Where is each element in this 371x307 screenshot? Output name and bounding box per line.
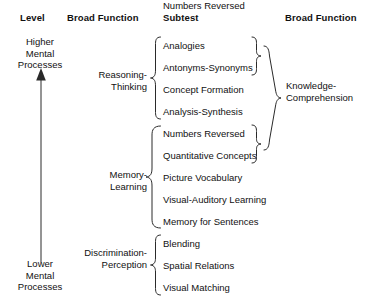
- hierarchy-diagram: Level Broad Function Subtest Broad Funct…: [0, 0, 371, 307]
- brace-memory-learning: [146, 126, 161, 228]
- level-arrow-icon: [36, 68, 46, 262]
- brace-knowledge-comprehension: [264, 46, 281, 150]
- brace-reasoning-thinking: [151, 37, 161, 119]
- brace-group-quantitative: [252, 125, 261, 163]
- brace-discrimination-perception: [151, 235, 161, 295]
- diagram-lines: [0, 0, 371, 307]
- brace-group-verbal-reasoning: [252, 37, 261, 75]
